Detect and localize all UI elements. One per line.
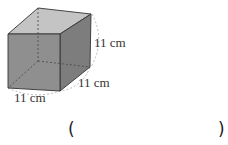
cube-front-face: [8, 34, 60, 91]
answer-blank[interactable]: [80, 119, 220, 141]
answer-close-paren: ): [218, 119, 225, 139]
height-label: 11 cm: [94, 35, 126, 51]
depth-label: 11 cm: [78, 75, 110, 91]
answer-open-paren: (: [68, 119, 75, 139]
width-label: 11 cm: [14, 90, 46, 106]
